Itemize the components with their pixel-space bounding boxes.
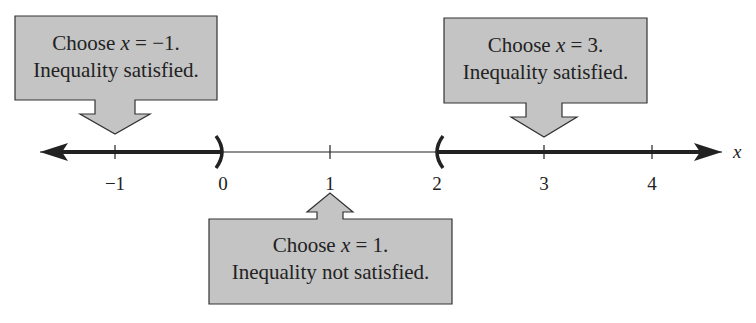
tick-label: 1 xyxy=(325,173,335,194)
tick-label: 0 xyxy=(218,173,228,194)
tick-label: 2 xyxy=(432,173,442,194)
callout-middle-text: Choose x = 1. Inequality not satisfied. xyxy=(209,232,452,286)
tick-label: 4 xyxy=(647,173,657,194)
tick-label: −1 xyxy=(105,173,125,194)
callout-right-text: Choose x = 3. Inequality satisfied. xyxy=(444,32,647,86)
callout-left-text: Choose x = −1. Inequality satisfied. xyxy=(15,30,217,84)
tick-label: 3 xyxy=(539,173,549,194)
axis-variable-label: x xyxy=(732,141,742,162)
